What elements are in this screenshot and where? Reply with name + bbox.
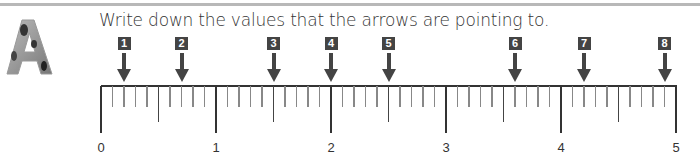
- axis-label: 3: [442, 140, 449, 155]
- minor-tick: [422, 86, 423, 107]
- axis-label: 4: [557, 140, 564, 155]
- arrow-number-badge: 5: [382, 37, 395, 50]
- minor-tick: [399, 86, 400, 107]
- minor-tick: [192, 86, 193, 107]
- minor-tick: [376, 86, 377, 107]
- axis-label: 1: [212, 140, 219, 155]
- minor-tick: [526, 86, 527, 107]
- minor-tick: [549, 86, 550, 107]
- minor-tick: [583, 86, 584, 107]
- minor-tick: [250, 86, 251, 107]
- minor-tick: [595, 86, 596, 107]
- half-tick: [618, 86, 619, 122]
- minor-tick: [572, 86, 573, 107]
- major-tick: [330, 86, 331, 133]
- minor-tick: [227, 86, 228, 107]
- major-tick: [675, 86, 676, 133]
- major-tick: [560, 86, 561, 133]
- axis-label: 2: [327, 140, 334, 155]
- down-arrow-icon: [323, 53, 339, 83]
- arrow-number-badge: 2: [175, 37, 188, 50]
- minor-tick: [319, 86, 320, 107]
- minor-tick: [238, 86, 239, 107]
- minor-tick: [181, 86, 182, 107]
- top-rule: [0, 3, 700, 6]
- minor-tick: [411, 86, 412, 107]
- axis-label: 5: [672, 140, 679, 155]
- minor-tick: [434, 86, 435, 107]
- down-arrow-icon: [657, 53, 673, 83]
- minor-tick: [537, 86, 538, 107]
- minor-tick: [284, 86, 285, 107]
- minor-tick: [606, 86, 607, 107]
- minor-tick: [468, 86, 469, 107]
- minor-tick: [169, 86, 170, 107]
- minor-tick: [296, 86, 297, 107]
- minor-tick: [261, 86, 262, 107]
- minor-tick: [629, 86, 630, 107]
- instruction-text: Write down the values that the arrows ar…: [99, 10, 549, 30]
- axis-label: 0: [97, 140, 104, 155]
- down-arrow-icon: [266, 53, 282, 83]
- down-arrow-icon: [381, 53, 397, 83]
- half-tick: [503, 86, 504, 122]
- minor-tick: [146, 86, 147, 107]
- down-arrow-icon: [576, 53, 592, 83]
- major-tick: [100, 86, 101, 133]
- half-tick: [158, 86, 159, 122]
- minor-tick: [353, 86, 354, 107]
- minor-tick: [457, 86, 458, 107]
- minor-tick: [664, 86, 665, 107]
- down-arrow-icon: [116, 53, 132, 83]
- minor-tick: [641, 86, 642, 107]
- letter-a-icon: [4, 16, 56, 76]
- half-tick: [273, 86, 274, 122]
- major-tick: [215, 86, 216, 133]
- arrow-number-badge: 4: [325, 37, 338, 50]
- major-tick: [445, 86, 446, 133]
- minor-tick: [342, 86, 343, 107]
- minor-tick: [491, 86, 492, 107]
- minor-tick: [652, 86, 653, 107]
- down-arrow-icon: [174, 53, 190, 83]
- arrow-number-badge: 6: [509, 37, 522, 50]
- minor-tick: [514, 86, 515, 107]
- arrow-number-badge: 1: [118, 37, 131, 50]
- arrow-number-badge: 3: [267, 37, 280, 50]
- arrow-number-badge: 8: [658, 37, 671, 50]
- minor-tick: [112, 86, 113, 107]
- down-arrow-icon: [507, 53, 523, 83]
- minor-tick: [123, 86, 124, 107]
- minor-tick: [365, 86, 366, 107]
- arrow-number-badge: 7: [578, 37, 591, 50]
- minor-tick: [480, 86, 481, 107]
- half-tick: [388, 86, 389, 122]
- minor-tick: [135, 86, 136, 107]
- minor-tick: [307, 86, 308, 107]
- minor-tick: [204, 86, 205, 107]
